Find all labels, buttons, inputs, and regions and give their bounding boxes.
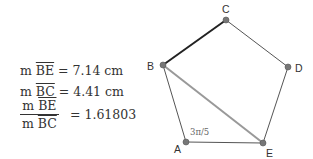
point-a[interactable] <box>183 139 189 145</box>
vertex-label-a: A <box>174 143 181 155</box>
pentagon-figure: 3π/5 A B C D E <box>0 0 313 159</box>
edge-bc-highlighted[interactable] <box>163 20 226 65</box>
point-d[interactable] <box>285 64 291 70</box>
edge-ab[interactable] <box>163 65 186 142</box>
pentagon-edges <box>163 20 288 143</box>
vertex-points <box>160 17 291 146</box>
edge-ea[interactable] <box>186 142 263 143</box>
vertex-label-c: C <box>222 3 230 15</box>
angle-label: 3π/5 <box>190 127 209 137</box>
diagonal-be[interactable] <box>163 65 263 143</box>
point-e[interactable] <box>260 140 266 146</box>
vertex-label-e: E <box>266 147 273 159</box>
edge-cd[interactable] <box>226 20 288 67</box>
edge-de[interactable] <box>263 67 288 143</box>
point-c[interactable] <box>223 17 229 23</box>
vertex-label-b: B <box>147 60 154 72</box>
vertex-label-d: D <box>295 62 303 74</box>
point-b[interactable] <box>160 62 166 68</box>
